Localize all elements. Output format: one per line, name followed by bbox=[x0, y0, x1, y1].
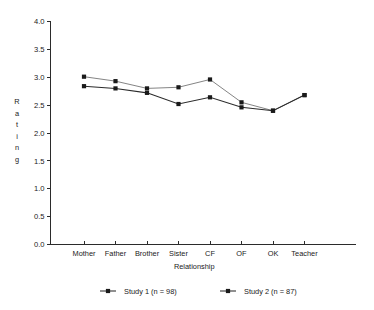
x-axis-title: Relationship bbox=[174, 262, 215, 271]
series-study-2-marker bbox=[176, 85, 180, 89]
series-study-1-marker bbox=[271, 109, 275, 113]
legend-item-study-2-label: Study 2 (n = 87) bbox=[244, 287, 297, 296]
series-study-2-marker bbox=[113, 79, 117, 83]
y-axis-title-letter: g bbox=[15, 155, 19, 164]
series-study-1-marker bbox=[113, 86, 117, 90]
y-axis-title: Rating bbox=[14, 97, 20, 164]
y-axis-title-letter: n bbox=[15, 143, 19, 152]
legend: Study 1 (n = 98)Study 2 (n = 87) bbox=[100, 287, 297, 296]
line-chart: 0.00.51.01.52.02.53.03.54.0RatingMotherF… bbox=[0, 0, 374, 310]
y-tick-label: 1.5 bbox=[34, 157, 45, 166]
y-axis-title-letter: a bbox=[15, 109, 20, 118]
series-study-2-marker bbox=[208, 77, 212, 81]
legend-item-study-1-label: Study 1 (n = 98) bbox=[124, 287, 177, 296]
y-tick-label: 3.0 bbox=[34, 73, 45, 82]
series-study-1-marker bbox=[145, 91, 149, 95]
y-axis-title-letter: R bbox=[14, 97, 19, 106]
series-study-1-marker bbox=[239, 105, 243, 109]
x-axis-ticks: MotherFatherBrotherSisterCFOFOKTeacher bbox=[72, 241, 318, 258]
series-study-1-marker bbox=[208, 95, 212, 99]
x-tick-label-of: OF bbox=[236, 249, 247, 258]
x-tick-label-cf: CF bbox=[205, 249, 215, 258]
chart-container: 0.00.51.01.52.02.53.03.54.0RatingMotherF… bbox=[0, 0, 374, 310]
y-tick-label: 3.5 bbox=[34, 45, 45, 54]
series-study-1-marker bbox=[302, 93, 306, 97]
series-study-2-marker bbox=[145, 86, 149, 90]
legend-item-study-1[interactable]: Study 1 (n = 98) bbox=[100, 287, 177, 296]
y-axis-title-letter: t bbox=[16, 120, 18, 129]
x-tick-label-mother: Mother bbox=[72, 249, 96, 258]
series-study-2-marker bbox=[82, 75, 86, 79]
series-study-1-marker bbox=[176, 102, 180, 106]
y-tick-label: 2.5 bbox=[34, 101, 45, 110]
legend-item-study-1-marker bbox=[106, 289, 110, 293]
x-tick-label-father: Father bbox=[105, 249, 127, 258]
y-tick-label: 0.5 bbox=[34, 212, 45, 221]
legend-item-study-2[interactable]: Study 2 (n = 87) bbox=[220, 287, 297, 296]
x-tick-label-brother: Brother bbox=[135, 249, 160, 258]
y-axis-ticks: 0.00.51.01.52.02.53.03.54.0 bbox=[34, 17, 51, 249]
legend-item-study-2-marker bbox=[226, 289, 230, 293]
y-tick-label: 1.0 bbox=[34, 184, 45, 193]
series-study-1 bbox=[82, 84, 307, 113]
series-study-1-marker bbox=[82, 84, 86, 88]
x-tick-label-ok: OK bbox=[268, 249, 279, 258]
x-tick-label-teacher: Teacher bbox=[291, 249, 318, 258]
series-study-2-marker bbox=[239, 100, 243, 104]
y-tick-label: 2.0 bbox=[34, 129, 45, 138]
series-study-2 bbox=[82, 75, 307, 113]
y-tick-label: 4.0 bbox=[34, 17, 45, 26]
y-axis-title-letter: i bbox=[16, 132, 18, 141]
y-tick-label: 0.0 bbox=[34, 240, 45, 249]
x-tick-label-sister: Sister bbox=[169, 249, 188, 258]
axes-group bbox=[51, 22, 356, 245]
